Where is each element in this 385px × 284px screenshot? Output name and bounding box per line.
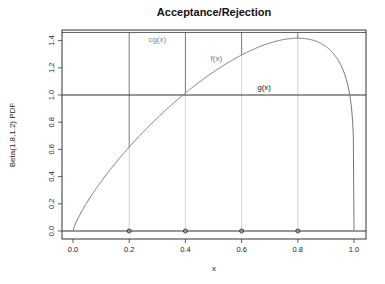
y-tick-label: 1.0 xyxy=(47,90,56,100)
x-axis: 0.00.20.40.60.81.0 xyxy=(68,239,359,254)
y-tick-label: 0.4 xyxy=(47,171,56,181)
y-tick-label: 1.2 xyxy=(47,63,56,73)
y-tick-label: 0.6 xyxy=(47,144,56,154)
x-tick-label: 0.8 xyxy=(293,245,303,254)
chart-title: Acceptance/Rejection xyxy=(157,6,272,18)
f-curve xyxy=(73,38,354,231)
annotation-label: cg(x) xyxy=(148,35,166,44)
x-tick-label: 0.6 xyxy=(236,245,246,254)
x-tick-label: 0.0 xyxy=(68,245,78,254)
y-tick-label: 0.0 xyxy=(47,226,56,236)
x-tick-label: 0.4 xyxy=(180,245,190,254)
x-axis-label: x xyxy=(212,264,216,273)
y-axis: 0.00.20.40.60.81.01.21.4 xyxy=(47,35,62,236)
x-tick-label: 1.0 xyxy=(349,245,359,254)
y-tick-label: 1.4 xyxy=(47,35,56,45)
y-axis-label: Beta(1.8,1.2) PDF xyxy=(8,103,17,168)
annotation-label: f(x) xyxy=(211,54,223,63)
x-tick-label: 0.2 xyxy=(124,245,134,254)
y-tick-label: 0.2 xyxy=(47,199,56,209)
plot-area: cg(x)f(x)g(x) xyxy=(62,30,366,239)
y-tick-label: 0.8 xyxy=(47,117,56,127)
annotation-label: g(x) xyxy=(257,83,271,92)
chart: Acceptance/Rejection cg(x)f(x)g(x) 0.00.… xyxy=(0,0,385,284)
